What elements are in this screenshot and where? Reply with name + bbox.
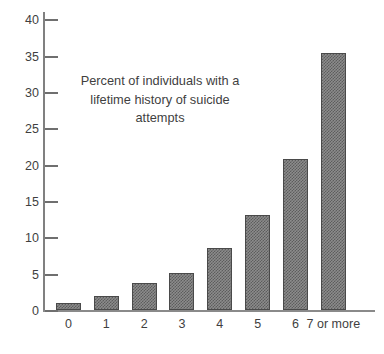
x-axis-tick-label: 2 xyxy=(141,318,148,331)
bar xyxy=(94,296,119,310)
y-axis-tick-label: 40 xyxy=(25,14,39,27)
bar xyxy=(56,303,81,310)
x-axis-tick-label: 3 xyxy=(179,318,186,331)
y-axis-tick: 0 xyxy=(45,310,58,312)
plot-area xyxy=(45,12,375,310)
x-axis-tick-label: 4 xyxy=(216,318,223,331)
bar xyxy=(245,215,270,310)
x-axis-tick-label: 1 xyxy=(103,318,110,331)
y-axis-tick-label: 25 xyxy=(25,123,39,136)
bar-chart: 0510152025303540 01234567 or more Percen… xyxy=(0,0,384,354)
x-axis-tick-label: 0 xyxy=(65,318,72,331)
x-axis-line xyxy=(43,310,375,312)
y-axis-tick-label: 15 xyxy=(25,196,39,209)
y-axis-tick-mark xyxy=(45,310,58,312)
chart-title: Percent of individuals with alifetime hi… xyxy=(62,72,258,128)
bar xyxy=(321,53,346,310)
y-axis-tick-label: 30 xyxy=(25,87,39,100)
bar xyxy=(283,159,308,310)
x-axis-tick-label: 5 xyxy=(254,318,261,331)
y-axis-tick-label: 0 xyxy=(32,305,39,318)
chart-title-line: attempts xyxy=(62,109,258,128)
chart-title-line: Percent of individuals with a xyxy=(62,72,258,91)
x-axis-tick-label: 6 xyxy=(292,318,299,331)
y-axis-tick-label: 35 xyxy=(25,50,39,63)
bar xyxy=(207,248,232,311)
chart-title-line: lifetime history of suicide xyxy=(62,91,258,110)
bar xyxy=(169,273,194,310)
y-axis-tick-label: 5 xyxy=(32,268,39,281)
y-axis-tick-label: 10 xyxy=(25,232,39,245)
bar xyxy=(132,283,157,310)
y-axis-tick-label: 20 xyxy=(25,159,39,172)
x-axis-tick-label: 7 or more xyxy=(307,318,361,331)
